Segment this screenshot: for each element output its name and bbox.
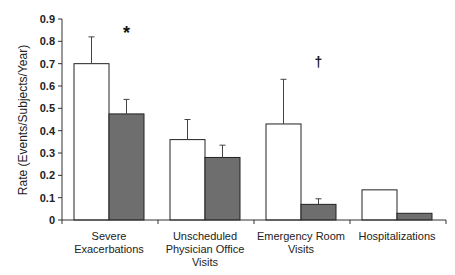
- bar-white-0: [74, 64, 109, 220]
- y-axis: 00.10.20.30.40.50.60.70.80.9: [40, 13, 62, 226]
- y-tick-label: 0.5: [40, 102, 55, 114]
- category-label: Emergency Room: [257, 230, 345, 242]
- bar-chart: 00.10.20.30.40.50.60.70.80.9 SevereExace…: [0, 0, 455, 275]
- bars: [74, 37, 432, 220]
- category-label: Hospitalizations: [358, 230, 436, 242]
- significance-asterisk: *: [123, 23, 130, 43]
- y-tick-label: 0.6: [40, 80, 55, 92]
- y-tick-label: 0: [49, 214, 55, 226]
- category-label: Unscheduled: [173, 230, 237, 242]
- significance-dagger: †: [315, 54, 323, 70]
- y-tick-label: 0.2: [40, 169, 55, 181]
- bar-white-2: [266, 124, 301, 220]
- bar-gray-2: [301, 204, 336, 220]
- category-label: Visits: [192, 256, 219, 268]
- category-label: Exacerbations: [74, 243, 144, 255]
- bar-white-1: [170, 140, 205, 220]
- category-label: Physician Office: [166, 243, 245, 255]
- y-tick-label: 0.8: [40, 35, 55, 47]
- y-tick-label: 0.7: [40, 58, 55, 70]
- category-label: Visits: [288, 243, 315, 255]
- y-tick-label: 0.3: [40, 147, 55, 159]
- significance-annotations: *†: [123, 23, 322, 70]
- category-label: Severe: [92, 230, 127, 242]
- y-tick-label: 0.9: [40, 13, 55, 25]
- bar-gray-0: [109, 114, 144, 220]
- y-tick-label: 0.4: [40, 125, 56, 137]
- y-tick-label: 0.1: [40, 192, 55, 204]
- bar-gray-3: [397, 213, 432, 220]
- x-axis: SevereExacerbationsUnscheduledPhysician …: [62, 220, 446, 268]
- y-axis-title: Rate (Events/Subjects/Year): [16, 45, 30, 195]
- bar-white-3: [362, 190, 397, 220]
- bar-gray-1: [205, 157, 240, 220]
